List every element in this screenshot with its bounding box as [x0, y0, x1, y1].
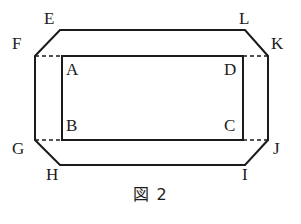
figure-caption: 図 2 — [0, 186, 301, 204]
vertex-label-k: K — [271, 35, 283, 52]
vertex-label-f: F — [12, 35, 21, 52]
vertex-label-c: C — [224, 117, 235, 134]
vertex-label-h: H — [46, 166, 58, 183]
vertex-label-d: D — [224, 61, 236, 78]
vertex-label-e: E — [44, 10, 54, 27]
vertex-label-g: G — [12, 140, 24, 157]
figure-page: ELFKADBCGJHI 図 2 — [0, 0, 301, 224]
outer-octagon-shape — [35, 30, 268, 165]
vertex-label-b: B — [66, 117, 77, 134]
vertex-label-i: I — [242, 166, 248, 183]
vertex-label-l: L — [239, 10, 249, 27]
vertex-label-j: J — [273, 140, 280, 157]
inner-rectangle-shape — [62, 56, 243, 140]
vertex-label-a: A — [66, 61, 78, 78]
